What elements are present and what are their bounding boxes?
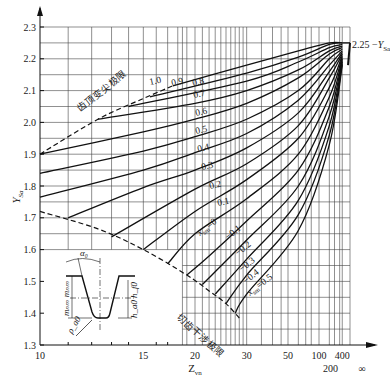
curve-label: 0.4 [196,142,210,154]
series-curve--0.3 [215,62,342,294]
curve-label: 0.7 [192,88,206,100]
x-tick-label: 100 [312,350,327,361]
y-tick-label: 1.3 [24,340,37,351]
x-tick-label: 30 [242,350,252,361]
tooth-profile-inset: α₀mₙₘ mₙₘh_f0h_a0ρ_a0 [61,248,139,336]
x-tick-label: ∞ [358,363,365,374]
curve-label: 0.5 [194,124,208,136]
inset-label: ρ_a0 [65,314,83,336]
y-tick-label: 2.3 [24,22,37,33]
y-tick-label: 1.9 [24,149,37,160]
curve-labels: 齿顶变尖极限切齿干涉极限1.00.90.80.70.60.50.40.30.20… [74,68,274,360]
curve-label: 0.2 [208,179,222,191]
inset-label: mₙₘ mₙₘ [61,281,71,316]
inset-label: h_a0 [129,300,139,319]
series-curve-0.4 [40,51,342,197]
inset-label: α₀ [80,248,88,258]
y-tick-label: 1.5 [24,276,37,287]
y-tick-label: 1.4 [24,308,37,319]
x-tick-label: 50 [283,350,293,361]
x-tick-label: 200 [323,363,338,374]
y-tick-label: 2.1 [24,85,37,96]
x-tick-label: 400 [335,350,350,361]
y-tick-label: 2.0 [24,117,37,128]
y-axis-title: YSa [10,190,25,204]
y-tick-label: 1.6 [24,244,37,255]
x-tick-label: 10 [35,350,45,361]
y-tick-label: 1.7 [24,212,37,223]
x-tick-label: 20 [190,350,200,361]
curve-label: 0.8 [191,76,205,88]
right-annotation: 2.25 −YSa [352,39,390,53]
curve-label: 1.0 [148,75,162,87]
chart: 1.31.41.51.61.71.81.92.02.12.22.31015203… [0,0,390,378]
x-axis-title: Zvn [188,362,202,377]
inset-label: h_f0 [129,281,139,298]
x-tick-label: 15 [138,350,148,361]
y-tick-label: 1.8 [24,181,37,192]
curve-label: 0.1 [216,196,230,208]
y-tick-label: 2.2 [24,53,37,64]
series-curve-0.9 [150,43,342,97]
